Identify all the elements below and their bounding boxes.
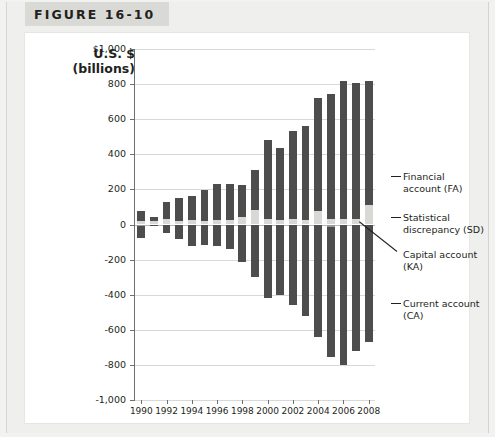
y-tick-label: 400	[108, 148, 126, 159]
y-tick-mark	[130, 400, 134, 401]
y-tick-mark	[130, 189, 134, 190]
bar-segment-financial-account	[251, 170, 259, 210]
annot-sd-line2: discrepancy (SD)	[403, 224, 484, 235]
bar-segment-current-account	[352, 225, 360, 351]
plot-area: $1,0008006004002000-200-400-600-800-1,00…	[135, 49, 375, 400]
annotation-capital-account: Capital account(KA)	[403, 249, 495, 273]
x-tick-label: 1994	[178, 406, 206, 416]
chart-panel: U.S. $ (billions) $1,0008006004002000-20…	[24, 32, 470, 424]
y-tick-mark	[130, 154, 134, 155]
gridline	[135, 400, 375, 401]
y-tick-mark	[130, 119, 134, 120]
x-tick-mark	[192, 400, 193, 404]
bar-segment-statistical-discrepancy	[365, 205, 373, 224]
y-tick-label: 600	[108, 113, 126, 124]
bar-segment-current-account	[365, 225, 373, 342]
bar-segment-current-account	[327, 227, 335, 357]
bar-segment-current-account	[289, 225, 297, 305]
bar-segment-current-account	[201, 225, 209, 245]
y-tick-label: $1,000	[93, 43, 126, 54]
y-tick-mark	[130, 330, 134, 331]
gridline	[135, 365, 375, 366]
annot-fa-line2: account (FA)	[403, 183, 462, 194]
bar-segment-financial-account	[365, 81, 373, 205]
x-tick-mark	[268, 400, 269, 404]
bar-segment-financial-account	[289, 131, 297, 219]
gridline	[135, 49, 375, 50]
x-tick-mark	[343, 400, 344, 404]
x-tick-mark	[141, 400, 142, 404]
bar-segment-current-account	[264, 225, 272, 298]
bar-segment-financial-account	[340, 81, 348, 219]
bar-segment-current-account	[175, 225, 183, 240]
y-axis-title-line2: (billions)	[73, 61, 135, 76]
annotation-financial-account: Financialaccount (FA)	[403, 171, 495, 195]
x-tick-label: 1990	[127, 406, 155, 416]
figure-header-band: FIGURE 16-10	[25, 2, 169, 26]
bar-segment-current-account	[314, 225, 322, 337]
figure-root: FIGURE 16-10 U.S. $ (billions) $1,000800…	[0, 0, 495, 437]
bar-segment-statistical-discrepancy	[251, 210, 259, 225]
bar-segment-current-account	[213, 225, 221, 247]
x-tick-label: 2008	[355, 406, 383, 416]
y-tick-mark	[130, 225, 134, 226]
bar-segment-financial-account	[314, 98, 322, 211]
bar-segment-current-account	[226, 225, 234, 250]
y-tick-label: -600	[104, 324, 126, 335]
y-tick-label: -400	[104, 289, 126, 300]
y-tick-mark	[130, 49, 134, 50]
annotation-statistical-discrepancy: Statisticaldiscrepancy (SD)	[403, 212, 495, 236]
annot-sd-line1: Statistical	[403, 212, 450, 223]
annot-fa-line1: Financial	[403, 171, 445, 182]
x-tick-mark	[242, 400, 243, 404]
bar-segment-statistical-discrepancy	[314, 211, 322, 224]
bar-segment-financial-account	[276, 148, 284, 219]
y-tick-label: -200	[104, 254, 126, 265]
bar-segment-financial-account	[137, 211, 145, 221]
annot-ca-line2: (CA)	[403, 310, 424, 321]
bar-segment-current-account	[163, 225, 171, 234]
bar-segment-financial-account	[352, 83, 360, 219]
y-tick-label: 200	[108, 183, 126, 194]
bar-segment-financial-account	[150, 217, 158, 221]
bar-segment-financial-account	[175, 198, 183, 221]
x-tick-label: 1998	[228, 406, 256, 416]
bar-segment-financial-account	[302, 126, 310, 220]
y-tick-label: -800	[104, 359, 126, 370]
bar-segment-financial-account	[264, 140, 272, 219]
figure-label: FIGURE 16-10	[25, 7, 155, 22]
leader-line	[391, 217, 401, 218]
bar-segment-current-account	[251, 225, 259, 277]
x-tick-label: 2006	[329, 406, 357, 416]
y-tick-label: -1,000	[95, 394, 126, 405]
x-tick-label: 1992	[153, 406, 181, 416]
bar-segment-financial-account	[201, 190, 209, 220]
bar-segment-current-account	[340, 225, 348, 365]
x-tick-mark	[167, 400, 168, 404]
bar-segment-current-account	[188, 225, 196, 246]
y-tick-mark	[130, 295, 134, 296]
bar-segment-financial-account	[163, 202, 171, 219]
x-tick-mark	[318, 400, 319, 404]
bar-segment-financial-account	[226, 184, 234, 220]
y-tick-mark	[130, 365, 134, 366]
bar-segment-financial-account	[238, 185, 246, 216]
bar-segment-financial-account	[327, 94, 335, 219]
leader-line	[391, 303, 401, 304]
y-tick-mark	[130, 260, 134, 261]
annotation-current-account: Current account(CA)	[403, 298, 495, 322]
y-tick-mark	[130, 84, 134, 85]
bar-segment-current-account	[238, 225, 246, 263]
bar-segment-financial-account	[213, 184, 221, 220]
x-tick-label: 2002	[279, 406, 307, 416]
bar-segment-current-account	[137, 226, 145, 239]
annot-ka-line1: Capital account	[403, 249, 477, 260]
x-tick-mark	[293, 400, 294, 404]
x-tick-label: 2004	[304, 406, 332, 416]
y-tick-label: 0	[120, 219, 126, 230]
leader-line	[391, 176, 401, 177]
bar-segment-current-account	[276, 225, 284, 295]
bar-segment-current-account	[302, 225, 310, 316]
x-tick-label: 1996	[203, 406, 231, 416]
bar-segment-financial-account	[188, 196, 196, 220]
